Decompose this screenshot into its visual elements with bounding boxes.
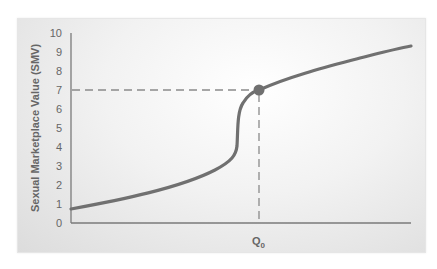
- q0-label: Q0: [252, 235, 266, 250]
- y-tick: 1: [56, 198, 62, 210]
- y-axis-label: Sexual Marketplace Value (SMV): [29, 44, 41, 212]
- y-tick: 8: [56, 65, 62, 77]
- y-tick: 3: [56, 160, 62, 172]
- q0-point: [254, 85, 265, 96]
- y-ticks: 0 1 2 3 4 5 6 7 8 9 10: [50, 27, 62, 229]
- y-tick: 7: [56, 84, 62, 96]
- y-tick: 6: [56, 103, 62, 115]
- y-tick: 10: [50, 27, 62, 39]
- chart-svg: Sexual Marketplace Value (SMV) 0 1 2 3 4…: [0, 0, 437, 269]
- y-tick: 9: [56, 46, 62, 58]
- smv-curve: [71, 46, 411, 209]
- y-tick: 2: [56, 179, 62, 191]
- y-tick: 5: [56, 122, 62, 134]
- y-tick: 4: [56, 141, 62, 153]
- y-tick: 0: [56, 217, 62, 229]
